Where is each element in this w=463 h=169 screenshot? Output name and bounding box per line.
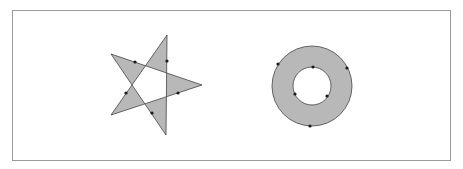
direction-marker <box>308 124 311 127</box>
direction-marker <box>325 94 328 97</box>
diagram-canvas <box>0 0 463 169</box>
direction-marker <box>150 111 153 114</box>
direction-marker <box>311 65 314 68</box>
direction-marker <box>293 92 296 95</box>
annulus-shape <box>272 46 352 128</box>
direction-marker <box>345 66 348 69</box>
diagram-frame <box>13 11 451 161</box>
direction-marker <box>133 60 136 63</box>
direction-marker <box>124 91 127 94</box>
direction-marker <box>176 91 179 94</box>
annulus-path <box>272 46 352 126</box>
direction-marker <box>165 59 168 62</box>
pentagram-shape <box>111 35 202 135</box>
direction-marker <box>276 62 279 65</box>
pentagram-path <box>111 35 202 135</box>
